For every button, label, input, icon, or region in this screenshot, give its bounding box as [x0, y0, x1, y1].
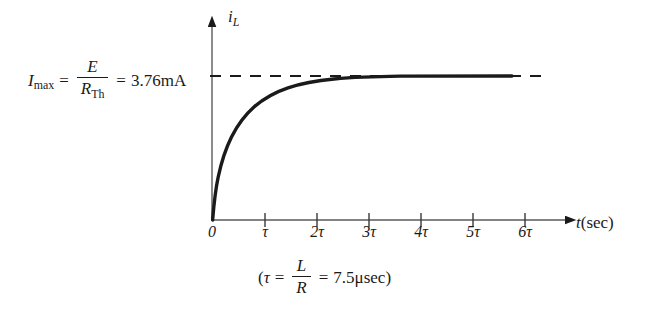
- imax-annotation: Imax=ERTh=3.76mA: [28, 60, 186, 104]
- caption-numerator: L: [292, 256, 310, 277]
- y-axis-subscript: L: [233, 15, 240, 29]
- inductor-current-figure: Imax=ERTh=3.76mA iL 0 τ 2τ 3τ 4τ 5τ 6τ t…: [0, 0, 649, 317]
- x-tick-label-2: 2τ: [310, 224, 324, 240]
- caption-fraction: LR: [292, 256, 310, 297]
- tau-caption: (τ=LR=7.5μsec): [0, 259, 649, 300]
- caption-close-paren: ): [385, 268, 391, 287]
- imax-subscript: max: [34, 78, 54, 92]
- x-tick-label-6: 6τ: [518, 224, 532, 240]
- x-tick-label-4: 4τ: [414, 224, 428, 240]
- imax-value: 3.76mA: [131, 71, 186, 90]
- x-tick-label-5: 5τ: [466, 224, 480, 240]
- x-tick-label-0: 0: [208, 224, 216, 240]
- imax-denominator: RTh: [77, 78, 109, 101]
- caption-equals-first: =: [275, 268, 285, 287]
- caption-equals-second: =: [319, 268, 329, 287]
- caption-denominator: R: [292, 277, 310, 297]
- y-axis-label: iL: [228, 8, 239, 28]
- imax-equals-second: =: [116, 71, 126, 90]
- caption-tau-symbol: τ: [264, 268, 270, 287]
- imax-fraction: ERTh: [77, 57, 109, 101]
- x-tick-label-1: τ: [262, 224, 268, 240]
- exponential-rise-curve: [213, 76, 512, 220]
- imax-equals-first: =: [59, 71, 69, 90]
- x-axis-unit: (sec): [581, 213, 614, 232]
- imax-numerator: E: [77, 57, 109, 78]
- caption-value: 7.5μsec: [333, 268, 385, 287]
- x-axis-label: t(sec): [576, 214, 614, 231]
- x-tick-label-3: 3τ: [362, 224, 376, 240]
